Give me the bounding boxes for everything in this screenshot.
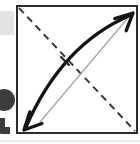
- gray-smudge-artifact: [0, 11, 14, 35]
- diagram-canvas: [0, 0, 140, 144]
- figure-container: Scanned diagram: square frame with dashe…: [0, 0, 140, 144]
